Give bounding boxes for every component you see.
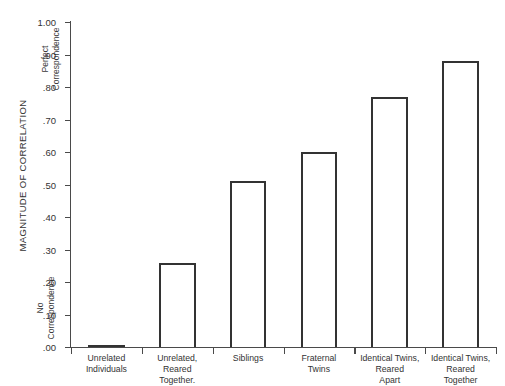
y-tick: .60 [65, 152, 71, 153]
category-label: Identical Twins,RearedTogether [425, 353, 496, 386]
y-tick-label: .90 [43, 49, 56, 60]
category-label-line: Together. [142, 375, 213, 386]
y-tick: .10 [65, 315, 71, 316]
bar [371, 97, 408, 347]
y-tick: .20 [65, 282, 71, 283]
y-tick-label: .50 [43, 179, 56, 190]
y-tick: .50 [65, 185, 71, 186]
y-tick-label: .80 [43, 82, 56, 93]
y-tick: .70 [65, 120, 71, 121]
category-label-line: Reared [142, 364, 213, 375]
bar [159, 263, 196, 348]
plot-area: 1.00.90.80.70.60.50.40.30.20.10.00 [71, 22, 496, 347]
y-tick: .30 [65, 250, 71, 251]
y-tick: .90 [65, 55, 71, 56]
category-label-line: Unrelated [71, 353, 142, 364]
y-tick: .40 [65, 217, 71, 218]
y-tick-label: .60 [43, 147, 56, 158]
category-label-line: Fraternal [284, 353, 355, 364]
y-tick-label: .00 [43, 342, 56, 353]
y-tick-label: .40 [43, 212, 56, 223]
category-label: Siblings [213, 353, 284, 364]
category-label-line: Reared [354, 364, 425, 375]
category-label: UnrelatedIndividuals [71, 353, 142, 375]
bar [442, 61, 479, 347]
y-tick-label: .10 [43, 309, 56, 320]
category-label: Unrelated,RearedTogether. [142, 353, 213, 386]
category-label-line: Individuals [71, 364, 142, 375]
category-label: Identical Twins,RearedApart [354, 353, 425, 386]
bar [88, 345, 125, 347]
x-tick [496, 347, 497, 354]
y-tick-label: 1.00 [38, 17, 57, 28]
category-label-line: Unrelated, [142, 353, 213, 364]
category-label-line: Reared [425, 364, 496, 375]
y-tick-label: .30 [43, 244, 56, 255]
bar [230, 181, 267, 347]
bar [301, 152, 338, 347]
category-label-line: Together [425, 375, 496, 386]
correlation-bar-chart: MAGNITUDE OF CORRELATION Perfect Corresp… [0, 0, 505, 386]
y-tick: .80 [65, 87, 71, 88]
category-label: FraternalTwins [284, 353, 355, 375]
category-label-line: Siblings [213, 353, 284, 364]
category-label-line: Identical Twins, [425, 353, 496, 364]
y-axis-title: MAGNITUDE OF CORRELATION [17, 76, 28, 276]
y-tick-label: .70 [43, 114, 56, 125]
category-label-line: Apart [354, 375, 425, 386]
y-tick: 1.00 [65, 22, 71, 23]
category-label-line: Identical Twins, [354, 353, 425, 364]
category-label-line: Twins [284, 364, 355, 375]
y-tick-label: .20 [43, 277, 56, 288]
